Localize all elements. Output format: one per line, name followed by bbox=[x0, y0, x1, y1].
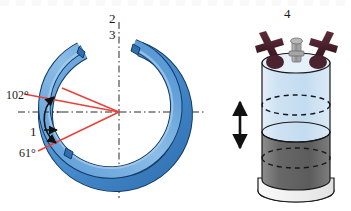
patent-figure: 2 3 102° 1 61° 4 bbox=[0, 0, 351, 211]
label-gap-callout: 1 bbox=[30, 125, 37, 138]
label-angle-lower: 61° bbox=[19, 147, 36, 159]
vessel-assembly bbox=[240, 31, 338, 202]
label-angle-upper: 102° bbox=[6, 89, 29, 101]
vessel-upper-section bbox=[262, 63, 330, 142]
label-ring-axis-upper: 2 bbox=[109, 12, 116, 25]
label-ring-axis-lower: 3 bbox=[109, 28, 116, 41]
label-vessel: 4 bbox=[284, 7, 291, 20]
valve-handle-right bbox=[309, 31, 338, 69]
ring-diagram-layer bbox=[0, 0, 351, 211]
valve-handle-left bbox=[255, 31, 284, 69]
